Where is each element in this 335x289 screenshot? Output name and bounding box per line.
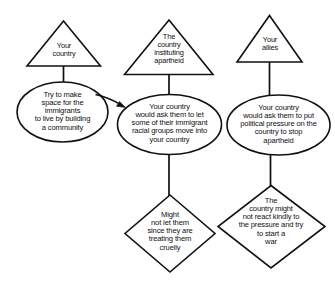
node-ell-ask-political-pressure[interactable] <box>227 95 330 155</box>
node-tri-country-apartheid[interactable] <box>125 20 214 75</box>
diagram-shapes-layer <box>0 0 335 289</box>
node-tri-your-allies[interactable] <box>237 16 302 63</box>
node-ell-make-space[interactable] <box>17 82 108 142</box>
node-dia-not-react-kindly[interactable] <box>218 186 325 269</box>
diagram-canvas: Your country The country instituting apa… <box>0 0 335 289</box>
node-tri-your-country[interactable] <box>27 21 101 66</box>
node-dia-might-not-let[interactable] <box>125 195 215 272</box>
node-ell-ask-move-immigrants[interactable] <box>118 95 222 155</box>
